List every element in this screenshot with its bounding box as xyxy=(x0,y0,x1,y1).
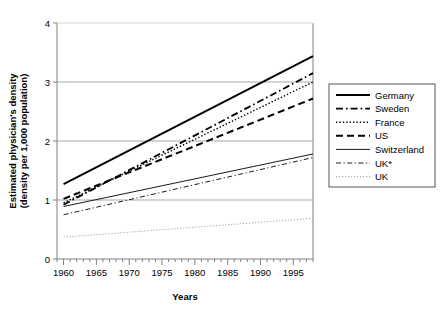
x-tick-label-1995: 1995 xyxy=(283,267,304,278)
legend-label-switzerland: Switzerland xyxy=(375,144,424,155)
physician-density-line-chart: 01234 19601965197019751980198519901995 E… xyxy=(0,0,442,312)
legend-label-us: US xyxy=(375,130,388,141)
y-tick-label-3: 3 xyxy=(45,77,50,88)
legend-label-uk: UK xyxy=(375,171,389,182)
x-tick-label-1960: 1960 xyxy=(53,267,74,278)
x-tick-label-1990: 1990 xyxy=(250,267,271,278)
legend-label-sweden: Sweden xyxy=(375,103,409,114)
y-tick-label-4: 4 xyxy=(45,18,50,29)
y-tick-label-0: 0 xyxy=(45,254,50,265)
y-axis-title-line2: (density per 1,000 population) xyxy=(18,74,29,209)
chart-figure: 01234 19601965197019751980198519901995 E… xyxy=(0,0,442,312)
x-tick-label-1975: 1975 xyxy=(151,267,172,278)
x-tick-label-1985: 1985 xyxy=(217,267,238,278)
legend-label-uk-: UK* xyxy=(375,158,392,169)
x-tick-label-1980: 1980 xyxy=(184,267,205,278)
y-axis-tick-labels: 01234 xyxy=(45,18,50,265)
y-tick-label-2: 2 xyxy=(45,136,50,147)
legend-label-france: France xyxy=(375,117,405,128)
x-axis-tick-labels: 19601965197019751980198519901995 xyxy=(53,267,304,278)
x-tick-label-1965: 1965 xyxy=(86,267,107,278)
x-axis-title: Years xyxy=(172,291,197,302)
y-axis-ticks xyxy=(53,23,57,259)
x-tick-label-1970: 1970 xyxy=(119,267,140,278)
y-tick-label-1: 1 xyxy=(45,195,50,206)
legend-label-germany: Germany xyxy=(375,90,414,101)
legend: GermanySwedenFranceUSSwitzerlandUK*UK xyxy=(329,84,435,187)
x-axis-ticks xyxy=(57,259,313,265)
y-axis-title-line1: Estimated physician's density xyxy=(7,73,18,209)
